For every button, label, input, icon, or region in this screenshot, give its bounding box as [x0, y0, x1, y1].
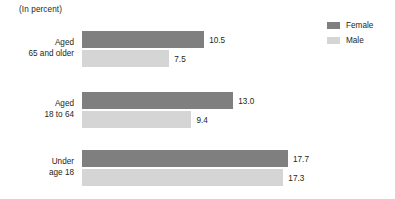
category-label-line1: Under	[0, 157, 74, 168]
plot-area: Aged65 and older10.57.5Aged18 to 6413.09…	[0, 0, 395, 199]
category-label-line1: Aged	[0, 38, 74, 49]
bar-value-label: 9.4	[191, 115, 207, 124]
category-label: Aged18 to 64	[0, 99, 74, 120]
category-label-line1: Aged	[0, 99, 74, 110]
bar-male	[82, 50, 169, 67]
bar-value-label: 13.0	[233, 96, 254, 105]
bar-male	[82, 169, 283, 186]
bar-chart: (In percent) Female Male Aged65 and olde…	[0, 0, 395, 199]
bar-female	[82, 31, 204, 48]
bar-value-label: 17.3	[283, 173, 304, 182]
category-label-line2: 65 and older	[0, 49, 74, 60]
category-label-line2: age 18	[0, 168, 74, 179]
bar-male	[82, 111, 191, 128]
category-label-line2: 18 to 64	[0, 110, 74, 121]
category-label: Underage 18	[0, 157, 74, 178]
bar-value-label: 10.5	[204, 35, 225, 44]
bar-value-label: 7.5	[169, 54, 185, 63]
bar-female	[82, 150, 288, 167]
bar-value-label: 17.7	[288, 154, 309, 163]
category-label: Aged65 and older	[0, 38, 74, 59]
bar-female	[82, 92, 233, 109]
